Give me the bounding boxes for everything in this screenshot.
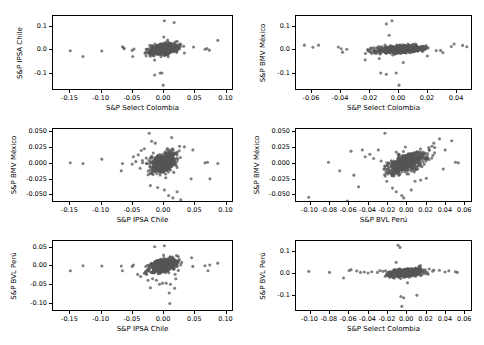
x-tick-mark [426,202,427,205]
x-tick-label: 0.05 [187,206,201,214]
x-tick-label: 0.02 [420,94,434,102]
x-tick-mark [69,90,70,93]
x-tick-mark [406,202,407,205]
y-tick-label: 0.05 [18,243,47,251]
x-tick-mark [311,90,312,93]
y-tick-label: -0.025 [18,175,47,183]
x-tick-mark [368,202,369,205]
x-tick-label: -0.05 [123,315,140,323]
y-tick-mark [49,163,52,164]
y-tick-mark [292,26,295,27]
x-axis-label: S&P Select Colombia [52,104,233,112]
y-tick-label: -0.05 [18,280,47,288]
x-tick-mark [310,311,311,314]
x-tick-mark [464,311,465,314]
x-tick-mark [368,311,369,314]
y-tick-mark [292,73,295,74]
x-tick-label: -0.06 [340,206,357,214]
data-points [296,16,471,89]
y-tick-mark [49,303,52,304]
x-tick-mark [101,90,102,93]
x-tick-label: -0.06 [303,94,320,102]
plot-area [52,128,233,202]
x-tick-label: 0.02 [418,315,432,323]
x-tick-label: -0.10 [92,315,109,323]
x-tick-label: 0.00 [156,94,170,102]
y-tick-mark [292,273,295,274]
x-tick-mark [163,202,164,205]
x-tick-label: 0.06 [457,315,471,323]
x-tick-label: -0.04 [359,206,376,214]
x-tick-mark [369,90,370,93]
x-tick-mark [226,90,227,93]
x-tick-mark [194,90,195,93]
x-tick-label: 0.05 [187,94,201,102]
x-tick-mark [194,311,195,314]
data-points [53,241,232,310]
y-tick-mark [292,49,295,50]
x-tick-mark [387,311,388,314]
plot-area [52,15,233,90]
x-tick-label: -0.04 [359,315,376,323]
data-points [296,241,471,310]
x-tick-mark [427,90,428,93]
x-tick-mark [348,202,349,205]
x-tick-label: -0.05 [123,94,140,102]
y-tick-mark [49,131,52,132]
x-tick-label: -0.08 [320,315,337,323]
y-tick-label: 0.025 [18,143,47,151]
x-tick-label: 0.00 [391,94,405,102]
x-tick-mark [310,202,311,205]
x-tick-mark [426,311,427,314]
x-tick-mark [194,202,195,205]
y-tick-label: -0.10 [18,299,47,307]
x-tick-label: -0.10 [92,206,109,214]
y-tick-label: 0.00 [18,261,47,269]
x-tick-label: -0.04 [332,94,349,102]
x-tick-label: 0.04 [438,206,452,214]
y-tick-mark [292,163,295,164]
plot-area [295,240,472,311]
y-tick-label: 0.025 [261,143,290,151]
y-axis-label: S&P BMV México [259,15,267,90]
x-tick-label: 0.00 [156,206,170,214]
x-tick-label: 0.05 [187,315,201,323]
y-tick-mark [49,247,52,248]
x-tick-label: 0.04 [438,315,452,323]
y-tick-label: -0.025 [261,175,290,183]
x-tick-mark [132,202,133,205]
y-tick-mark [49,284,52,285]
x-tick-label: -0.06 [340,315,357,323]
x-tick-label: 0.00 [156,315,170,323]
x-tick-label: 0.00 [399,315,413,323]
x-tick-mark [101,311,102,314]
y-tick-label: 0.050 [18,127,47,135]
x-tick-mark [163,311,164,314]
y-tick-mark [49,179,52,180]
y-tick-mark [49,73,52,74]
x-tick-label: 0.06 [457,206,471,214]
x-tick-label: 0.04 [449,94,463,102]
plot-area [295,128,472,202]
y-axis-label: S&P BVL Perú [259,240,267,311]
x-axis-label: S&P IPSA Chile [52,325,233,333]
x-tick-mark [387,202,388,205]
x-tick-label: -0.15 [61,315,78,323]
y-tick-mark [49,26,52,27]
x-tick-label: 0.02 [418,206,432,214]
x-tick-label: 0.10 [218,94,232,102]
x-tick-label: -0.02 [378,206,395,214]
scatter-matrix-figure: -0.10.00.1-0.15-0.10-0.050.000.050.10S&P… [0,0,484,345]
x-tick-mark [163,90,164,93]
x-tick-mark [226,311,227,314]
x-tick-label: -0.15 [61,206,78,214]
y-tick-label: -0.050 [18,190,47,198]
x-tick-mark [69,311,70,314]
x-tick-mark [132,90,133,93]
y-axis-label: S&P BMV México [10,128,18,202]
x-tick-mark [132,311,133,314]
x-tick-label: -0.05 [123,206,140,214]
x-tick-label: -0.08 [320,206,337,214]
data-points [53,129,232,201]
x-axis-label: S&P BVL Perú [295,216,472,224]
